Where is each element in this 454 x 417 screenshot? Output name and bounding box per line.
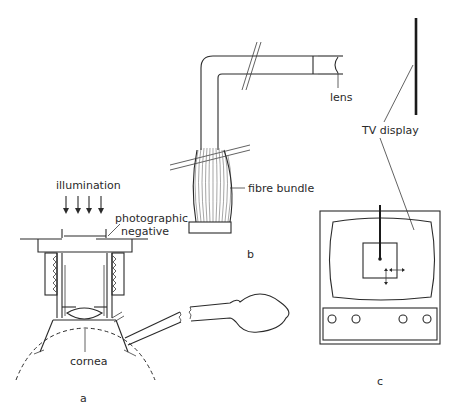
panel-label-b: b [247,248,254,261]
cornea-outline [16,328,155,380]
tv-control-panel [323,308,437,340]
tv-knob [399,315,407,323]
diagram-canvas: illumination photographic negative [0,0,454,417]
illumination-arrows [63,196,104,214]
illumination-label: illumination [56,179,121,192]
eye-cup-apparatus: illumination photographic negative [16,179,289,405]
lens-label: lens [330,91,353,104]
eyecup-lens [67,308,102,319]
objective-lens [335,57,338,73]
negative-label: negative [121,225,169,238]
panel-label-a: a [80,392,87,405]
panel-label-c: c [377,375,383,388]
suction-bulb-assembly [112,294,289,345]
tv-display-label: TV display [361,124,419,137]
tv-screen [330,218,435,300]
cornea-label: cornea [70,355,108,368]
fibre-bundle-label: fibre bundle [248,182,314,195]
photographic-negative [62,224,120,238]
photographic-label: photographic [115,212,188,225]
tv-knob [423,315,431,323]
tv-knob [328,315,336,323]
tv-knob [352,315,360,323]
fibre-optic-assembly: lens fibre bundle b [170,42,353,261]
